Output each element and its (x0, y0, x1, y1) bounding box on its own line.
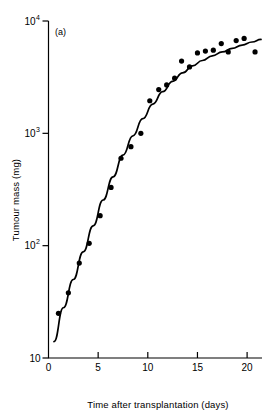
data-point-group (56, 36, 258, 316)
svg-text:10: 10 (24, 240, 36, 251)
data-point (211, 48, 216, 53)
y-tick-label: 103 (24, 126, 40, 139)
data-point (128, 144, 133, 149)
svg-text:10: 10 (24, 16, 36, 27)
data-point (172, 76, 177, 81)
data-point (87, 241, 92, 246)
y-tick-label: 10 (29, 353, 41, 364)
data-point (147, 98, 152, 103)
svg-text:2: 2 (36, 238, 40, 245)
data-point (219, 41, 224, 46)
data-point (226, 49, 231, 54)
data-point (195, 50, 200, 55)
y-axis-tick-labels: 10102103104 (24, 14, 41, 364)
axis-lines (49, 21, 263, 358)
data-point (56, 311, 61, 316)
x-tick-label: 20 (242, 362, 254, 373)
data-point (77, 260, 82, 265)
y-tick-label: 102 (24, 238, 40, 251)
svg-text:10: 10 (29, 353, 41, 364)
data-point (234, 38, 239, 43)
tumour-growth-chart: 10102103104 05101520 Time after transpla… (0, 0, 269, 416)
data-point (108, 185, 113, 190)
svg-text:10: 10 (24, 128, 36, 139)
data-point (118, 156, 123, 161)
figure-container: 10102103104 05101520 Time after transpla… (0, 0, 269, 416)
x-tick-label: 10 (142, 362, 154, 373)
svg-text:3: 3 (36, 126, 40, 133)
data-point (187, 64, 192, 69)
data-point (164, 82, 169, 87)
data-point (242, 36, 247, 41)
data-point (179, 58, 184, 63)
data-point (156, 87, 161, 92)
data-point (252, 49, 257, 54)
x-axis-tick-labels: 05101520 (46, 362, 253, 373)
data-point (66, 290, 71, 295)
data-point (98, 213, 103, 218)
x-axis-tick-marks (98, 352, 247, 358)
fitted-growth-curve (54, 39, 261, 341)
x-tick-label: 5 (95, 362, 101, 373)
y-axis-tick-marks (43, 21, 49, 358)
y-tick-label: 104 (24, 14, 40, 27)
y-axis-title: Tumour mass (mg) (10, 159, 21, 241)
x-axis-title: Time after transplantation (days) (87, 399, 228, 410)
x-tick-label: 15 (192, 362, 204, 373)
data-point (203, 48, 208, 53)
panel-label: (a) (55, 27, 66, 37)
data-point (138, 131, 143, 136)
x-tick-label: 0 (46, 362, 52, 373)
plot-axes (43, 21, 263, 358)
svg-text:4: 4 (36, 14, 40, 21)
